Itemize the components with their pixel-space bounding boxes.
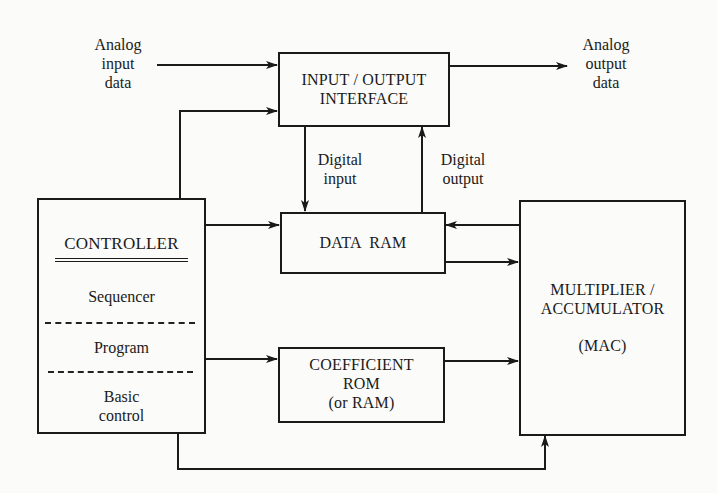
label-line: control xyxy=(37,406,206,425)
label-digital-input: Digital input xyxy=(309,150,371,188)
controller-title-underline xyxy=(55,258,188,262)
label-line: Digital xyxy=(432,150,494,169)
coefficient-rom-label: COEFFICIENT ROM (or RAM) xyxy=(278,355,445,412)
controller-divider xyxy=(45,322,195,324)
label-line: output xyxy=(570,54,642,73)
data-ram-label: DATA RAM xyxy=(280,233,446,252)
controller-title: CONTROLLER xyxy=(37,234,206,253)
controller-divider xyxy=(48,371,193,373)
label-analog-input: Analog input data xyxy=(82,35,154,92)
mac-label: MULTIPLIER / ACCUMULATOR (MAC) xyxy=(519,280,686,355)
controller-section-sequencer: Sequencer xyxy=(37,287,206,306)
label-line: ROM xyxy=(278,374,445,393)
label-line: data xyxy=(570,73,642,92)
label-line: (MAC) xyxy=(519,336,686,355)
io-interface-label: INPUT / OUTPUT INTERFACE xyxy=(278,70,450,108)
label-line: output xyxy=(432,169,494,188)
label-line: ACCUMULATOR xyxy=(519,299,686,318)
label-line: Digital xyxy=(309,150,371,169)
label-line: input xyxy=(309,169,371,188)
label-digital-output: Digital output xyxy=(432,150,494,188)
label-line: Basic xyxy=(37,387,206,406)
arrow-controller-to-mac xyxy=(178,433,545,469)
controller-section-basic-control: Basic control xyxy=(37,387,206,425)
label-line: MULTIPLIER / xyxy=(519,280,686,299)
label-line: INPUT / OUTPUT xyxy=(278,70,450,89)
controller-section-program: Program xyxy=(37,338,206,357)
arrow-controller-to-io xyxy=(180,111,277,198)
label-line: Analog xyxy=(570,35,642,54)
label-line: COEFFICIENT xyxy=(278,355,445,374)
label-analog-output: Analog output data xyxy=(570,35,642,92)
label-line: Analog xyxy=(82,35,154,54)
label-line: input xyxy=(82,54,154,73)
label-line: INTERFACE xyxy=(278,89,450,108)
label-line: data xyxy=(82,73,154,92)
label-line: (or RAM) xyxy=(278,393,445,412)
